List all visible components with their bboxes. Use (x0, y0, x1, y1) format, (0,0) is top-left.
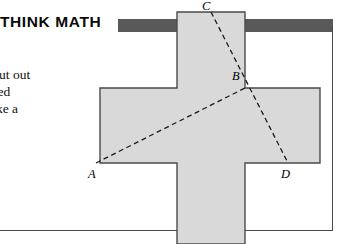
point-label-b: B (232, 70, 240, 83)
point-label-c: C (202, 0, 210, 13)
cross-polygon (100, 12, 320, 244)
point-label-d: D (281, 168, 290, 181)
page-canvas: THINK MATH Cut out tted ake a A B C D (0, 0, 345, 244)
cross-diagram-svg (0, 0, 345, 244)
figure-greek-cross: A B C D (0, 0, 345, 244)
point-label-a: A (88, 168, 96, 181)
